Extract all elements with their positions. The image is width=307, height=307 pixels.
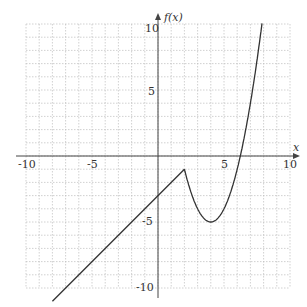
x-tick-label: -10 bbox=[18, 158, 36, 171]
y-axis-label: f(x) bbox=[163, 11, 183, 24]
y-tick-label: 5 bbox=[148, 85, 155, 98]
x-tick-label: -5 bbox=[87, 158, 98, 171]
y-tick-label: -5 bbox=[142, 215, 153, 228]
x-tick-label: 10 bbox=[283, 158, 297, 171]
x-tick-label: 5 bbox=[221, 158, 228, 171]
x-axis-label: x bbox=[293, 141, 300, 154]
function-graph: x f(x) -10 -5 5 10 10 5 -5 -10 bbox=[0, 0, 307, 307]
y-tick-label: 10 bbox=[145, 22, 159, 35]
y-axis-arrow-icon bbox=[155, 13, 161, 20]
y-tick-label: -10 bbox=[136, 281, 154, 294]
